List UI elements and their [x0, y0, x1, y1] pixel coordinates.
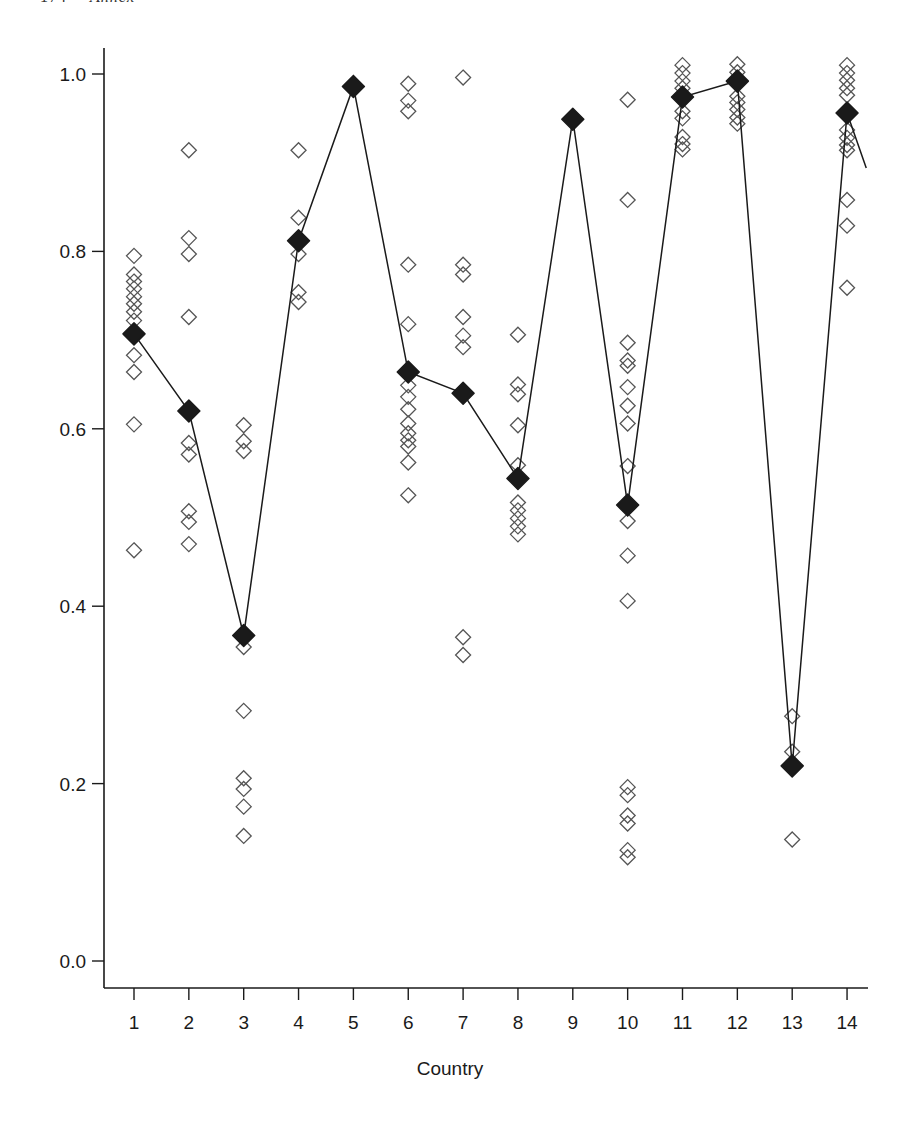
filled-diamond-marker	[123, 323, 145, 345]
x-axis: 1234567891011121314	[104, 988, 868, 1033]
open-diamond-marker	[181, 435, 196, 450]
open-diamond-marker	[291, 210, 306, 225]
x-tick-label: 10	[617, 1012, 638, 1033]
open-diamond-marker	[236, 703, 251, 718]
open-diamond-marker	[785, 832, 800, 847]
open-diamond-marker	[291, 143, 306, 158]
open-diamond-marker	[127, 248, 142, 263]
open-diamond-marker	[456, 310, 471, 325]
open-diamond-marker	[840, 280, 855, 295]
value-polyline	[134, 81, 866, 766]
open-diamond-marker	[181, 247, 196, 262]
open-diamond-marker	[620, 380, 635, 395]
open-diamond-marker	[127, 348, 142, 363]
open-diamond-marker	[620, 398, 635, 413]
country-value-markers	[123, 70, 858, 777]
x-tick-label: 2	[184, 1012, 195, 1033]
open-diamond-marker	[510, 418, 525, 433]
filled-diamond-marker	[507, 467, 529, 489]
open-diamond-marker	[181, 447, 196, 462]
open-diamond-marker	[236, 781, 251, 796]
open-diamond-marker	[730, 116, 745, 131]
open-diamond-marker	[456, 340, 471, 355]
y-tick-label: 0.8	[60, 241, 86, 262]
open-diamond-marker	[236, 799, 251, 814]
filled-diamond-marker	[288, 230, 310, 252]
filled-diamond-marker	[781, 755, 803, 777]
filled-diamond-marker	[672, 86, 694, 108]
y-tick-label: 0.4	[60, 596, 87, 617]
y-tick-label: 0.2	[60, 774, 86, 795]
open-diamond-marker	[236, 418, 251, 433]
open-diamond-marker	[181, 143, 196, 158]
x-tick-label: 13	[782, 1012, 803, 1033]
open-diamond-marker	[181, 537, 196, 552]
open-diamond-marker	[127, 543, 142, 558]
x-tick-label: 9	[568, 1012, 579, 1033]
x-tick-label: 8	[513, 1012, 524, 1033]
open-diamond-marker	[510, 377, 525, 392]
open-diamond-marker	[620, 192, 635, 207]
open-diamond-marker	[840, 192, 855, 207]
filled-diamond-marker	[342, 75, 364, 97]
open-diamond-marker	[236, 434, 251, 449]
open-diamond-marker	[401, 257, 416, 272]
x-tick-label: 4	[293, 1012, 304, 1033]
x-axis-title: Country	[417, 1058, 484, 1079]
open-diamond-marker	[291, 294, 306, 309]
open-diamond-marker	[181, 310, 196, 325]
x-tick-label: 6	[403, 1012, 414, 1033]
open-diamond-marker	[401, 455, 416, 470]
open-diamond-marker	[401, 76, 416, 91]
x-tick-label: 12	[727, 1012, 748, 1033]
scatter-line-chart: 0.00.20.40.60.81.0 1234567891011121314 C…	[0, 0, 910, 1125]
open-diamond-marker	[620, 593, 635, 608]
open-diamond-marker	[456, 328, 471, 343]
open-diamond-marker	[456, 647, 471, 662]
filled-diamond-marker	[233, 624, 255, 646]
y-tick-label: 1.0	[60, 64, 86, 85]
filled-diamond-marker	[178, 400, 200, 422]
open-diamond-marker	[236, 828, 251, 843]
country-value-line	[134, 81, 866, 766]
y-tick-label: 0.6	[60, 419, 86, 440]
x-tick-label: 1	[129, 1012, 140, 1033]
open-diamond-marker	[456, 257, 471, 272]
open-diamond-marker	[291, 285, 306, 300]
open-diamond-marker	[127, 417, 142, 432]
open-diamond-marker	[181, 231, 196, 246]
filled-diamond-marker	[726, 70, 748, 92]
filled-diamond-marker	[617, 494, 639, 516]
x-tick-label: 11	[673, 1012, 693, 1033]
open-diamond-marker	[510, 327, 525, 342]
open-diamond-marker	[620, 358, 635, 373]
filled-diamond-marker	[397, 361, 419, 383]
open-diamond-marker	[456, 70, 471, 85]
open-diamond-marker	[181, 514, 196, 529]
open-diamond-marker	[401, 317, 416, 332]
open-diamond-marker	[401, 416, 416, 431]
filled-diamond-marker	[452, 382, 474, 404]
open-diamond-marker	[236, 771, 251, 786]
open-diamond-marker	[236, 443, 251, 458]
open-diamond-marker	[401, 104, 416, 119]
y-tick-label: 0.0	[60, 951, 86, 972]
x-tick-label: 3	[238, 1012, 249, 1033]
x-tick-label: 7	[458, 1012, 469, 1033]
open-diamond-marker	[456, 630, 471, 645]
open-diamond-marker	[456, 267, 471, 282]
filled-diamond-marker	[836, 102, 858, 124]
filled-diamond-marker	[562, 108, 584, 130]
x-tick-label: 14	[836, 1012, 858, 1033]
open-diamond-marker	[620, 335, 635, 350]
open-diamond-marker	[620, 353, 635, 368]
x-tick-label: 5	[348, 1012, 359, 1033]
open-diamond-marker	[181, 504, 196, 519]
y-axis: 0.00.20.40.60.81.0	[60, 48, 104, 988]
open-diamond-marker	[840, 218, 855, 233]
open-diamond-marker	[127, 365, 142, 380]
open-diamond-marker	[620, 92, 635, 107]
open-diamond-marker	[510, 387, 525, 402]
open-diamond-marker	[620, 548, 635, 563]
open-diamond-marker	[401, 93, 416, 108]
